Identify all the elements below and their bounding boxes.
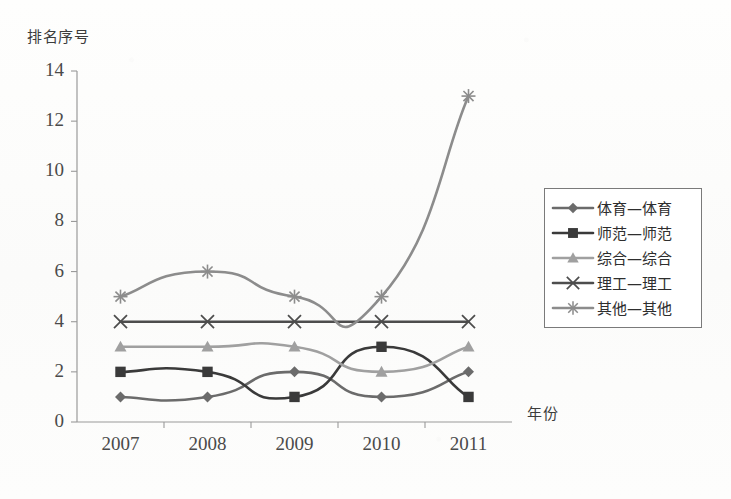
legend-item[interactable]: 体育—体育 xyxy=(551,195,696,220)
diamond-marker xyxy=(115,391,126,402)
legend-label: 理工—理工 xyxy=(597,272,672,293)
diamond-marker xyxy=(289,366,300,377)
y-tick-label: 10 xyxy=(24,159,64,181)
legend-diamond-marker xyxy=(553,202,593,212)
square-marker xyxy=(115,367,125,377)
legend-triangle-marker xyxy=(553,252,593,262)
square-marker xyxy=(463,392,473,402)
triangle-marker xyxy=(463,341,475,352)
y-tick-label: 4 xyxy=(24,310,64,332)
y-tick-label: 0 xyxy=(24,410,64,432)
legend-label: 体育—体育 xyxy=(597,197,672,218)
x-tick-label: 2011 xyxy=(429,433,509,455)
diamond-marker xyxy=(568,202,578,212)
legend-marker-sample xyxy=(551,222,595,244)
data-series-group xyxy=(114,89,476,402)
chart-page: 排名序号 年份 02468101214 20072008200920102011… xyxy=(0,0,731,499)
legend-item[interactable]: 理工—理工 xyxy=(551,270,696,295)
diamond-marker xyxy=(463,366,474,377)
diamond-marker xyxy=(202,391,213,402)
legend-item[interactable]: 师范—师范 xyxy=(551,220,696,245)
axes-group xyxy=(71,71,512,428)
legend-label: 综合—综合 xyxy=(597,247,672,268)
x-tick-label: 2008 xyxy=(168,433,248,455)
diamond-marker xyxy=(376,391,387,402)
legend-square-marker xyxy=(553,228,593,238)
series-x xyxy=(114,315,475,328)
legend-marker-sample xyxy=(551,272,595,294)
legend-item[interactable]: 综合—综合 xyxy=(551,245,696,270)
legend-label: 师范—师范 xyxy=(597,222,672,243)
legend-marker-sample xyxy=(551,297,595,319)
x-tick-label: 2009 xyxy=(255,433,335,455)
y-tick-marks xyxy=(71,71,77,422)
series-asterisk xyxy=(114,89,476,327)
x-tick-label: 2007 xyxy=(81,433,161,455)
y-tick-label: 2 xyxy=(24,360,64,382)
legend-label: 其他—其他 xyxy=(597,297,672,318)
legend-asterisk-marker xyxy=(553,301,593,314)
x-tick-label: 2010 xyxy=(342,433,422,455)
chart-legend: 体育—体育师范—师范综合—综合理工—理工其他—其他 xyxy=(544,188,702,328)
legend-cross-x-marker xyxy=(553,276,593,288)
y-tick-label: 14 xyxy=(24,59,64,81)
square-marker xyxy=(289,392,299,402)
y-tick-label: 8 xyxy=(24,209,64,231)
y-tick-label: 12 xyxy=(24,109,64,131)
y-tick-label: 6 xyxy=(24,260,64,282)
legend-item[interactable]: 其他—其他 xyxy=(551,295,696,320)
square-marker xyxy=(202,367,212,377)
square-marker xyxy=(376,342,386,352)
legend-marker-sample xyxy=(551,197,595,219)
legend-marker-sample xyxy=(551,247,595,269)
x-tick-marks xyxy=(164,422,425,428)
square-marker xyxy=(568,228,578,238)
